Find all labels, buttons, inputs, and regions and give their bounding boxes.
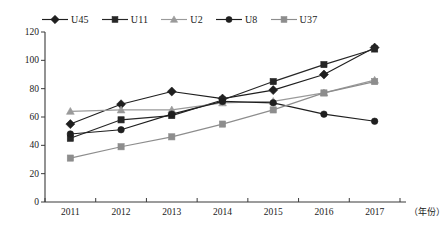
x-tick-label-2015: 2015: [253, 207, 293, 217]
data-point-U8-2013: [169, 111, 176, 118]
square-marker-icon: [271, 14, 297, 25]
circle-marker-icon: [216, 14, 242, 25]
y-tick-label-20: 20: [6, 169, 39, 179]
x-tick-label-2012: 2012: [101, 207, 141, 217]
diamond-marker-icon: [42, 14, 68, 25]
data-point-U37-2011: [67, 155, 73, 161]
data-point-U45-2011: [66, 120, 75, 129]
y-tick-label-0: 0: [6, 197, 39, 207]
legend-item-U45[interactable]: U45: [42, 14, 89, 25]
triangle-marker-icon: [161, 14, 187, 25]
data-point-U45-2015: [269, 86, 278, 95]
legend-label-U11: U11: [131, 14, 148, 25]
data-point-U8-2011: [67, 131, 74, 138]
legend-item-U8[interactable]: U8: [216, 14, 258, 25]
legend-item-U2[interactable]: U2: [161, 14, 203, 25]
data-point-U11-2012: [118, 117, 124, 123]
data-point-U37-2012: [118, 144, 124, 150]
legend-label-U37: U37: [300, 14, 318, 25]
series-line-U37: [70, 82, 374, 159]
data-point-U8-2012: [118, 126, 125, 133]
data-point-U11-2017: [372, 46, 378, 52]
data-point-U45-2016: [319, 70, 328, 79]
data-point-U37-2015: [270, 107, 276, 113]
data-point-U45-2013: [167, 87, 176, 96]
legend-label-U45: U45: [71, 14, 89, 25]
legend-label-U8: U8: [245, 14, 258, 25]
data-point-U8-2016: [321, 111, 328, 118]
data-point-U37-2016: [321, 90, 327, 96]
x-axis-unit-label: （年份）: [409, 207, 444, 217]
series-line-U45: [70, 48, 374, 125]
y-tick-label-80: 80: [6, 84, 39, 94]
chart-series-group: [66, 43, 379, 161]
data-point-U8-2015: [270, 100, 277, 107]
x-tick-label-2011: 2011: [50, 207, 90, 217]
y-tick-label-40: 40: [6, 140, 39, 150]
y-tick-label-100: 100: [6, 55, 39, 65]
legend-label-U2: U2: [190, 14, 203, 25]
x-tick-label-2013: 2013: [152, 207, 192, 217]
chart-legend: U45U11U2U8U37: [42, 11, 317, 27]
data-point-U8-2017: [371, 118, 378, 125]
data-point-U37-2013: [169, 134, 175, 140]
legend-item-U37[interactable]: U37: [271, 14, 318, 25]
data-point-U8-2014: [219, 98, 226, 105]
legend-item-U11[interactable]: U11: [102, 14, 148, 25]
series-U8: [67, 98, 378, 137]
square-marker-icon: [102, 14, 128, 25]
x-tick-label-2017: 2017: [355, 207, 395, 217]
y-tick-label-120: 120: [6, 27, 39, 37]
data-point-U11-2015: [270, 78, 276, 84]
data-point-U37-2017: [372, 78, 378, 84]
series-U37: [67, 78, 377, 161]
data-point-U11-2016: [321, 61, 327, 67]
y-tick-label-60: 60: [6, 112, 39, 122]
data-point-U37-2014: [219, 121, 225, 127]
chart-axes: [41, 32, 406, 202]
x-tick-label-2016: 2016: [304, 207, 344, 217]
x-tick-label-2014: 2014: [203, 207, 243, 217]
